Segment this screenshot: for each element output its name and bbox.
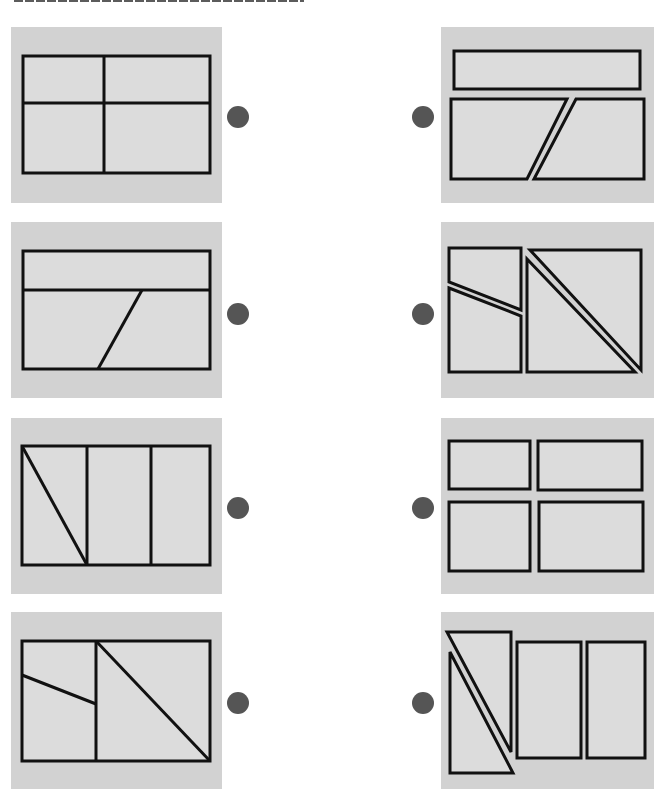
match-dot-right-3[interactable] — [412, 497, 434, 519]
right-figure-1 — [441, 27, 654, 203]
match-dot-right-4[interactable] — [412, 692, 434, 714]
figure-split-rectangle-diagonals-icon — [11, 612, 222, 789]
match-dot-left-1[interactable] — [227, 106, 249, 128]
right-figure-3 — [441, 418, 654, 594]
right-figure-2 — [441, 222, 654, 398]
figure-rectangle-slanted-cut-icon — [11, 222, 222, 398]
figure-four-separate-rectangles-icon — [441, 418, 654, 594]
figure-three-strips-diagonal-icon — [11, 418, 222, 594]
figure-quadrilaterals-triangles-icon — [441, 222, 654, 398]
match-dot-right-1[interactable] — [412, 106, 434, 128]
figure-triangles-rectangles-icon — [441, 612, 654, 789]
left-figure-3 — [11, 418, 222, 594]
left-figure-2 — [11, 222, 222, 398]
match-dot-left-4[interactable] — [227, 692, 249, 714]
figure-four-rectangles-joined-icon — [11, 27, 222, 203]
match-dot-left-2[interactable] — [227, 303, 249, 325]
clipped-text — [14, 0, 304, 2]
left-figure-4 — [11, 612, 222, 789]
match-dot-left-3[interactable] — [227, 497, 249, 519]
match-dot-right-2[interactable] — [412, 303, 434, 325]
left-figure-1 — [11, 27, 222, 203]
instruction-heading-clipped — [14, 0, 304, 6]
figure-rectangle-two-trapezoids-icon — [441, 27, 654, 203]
right-figure-4 — [441, 612, 654, 789]
